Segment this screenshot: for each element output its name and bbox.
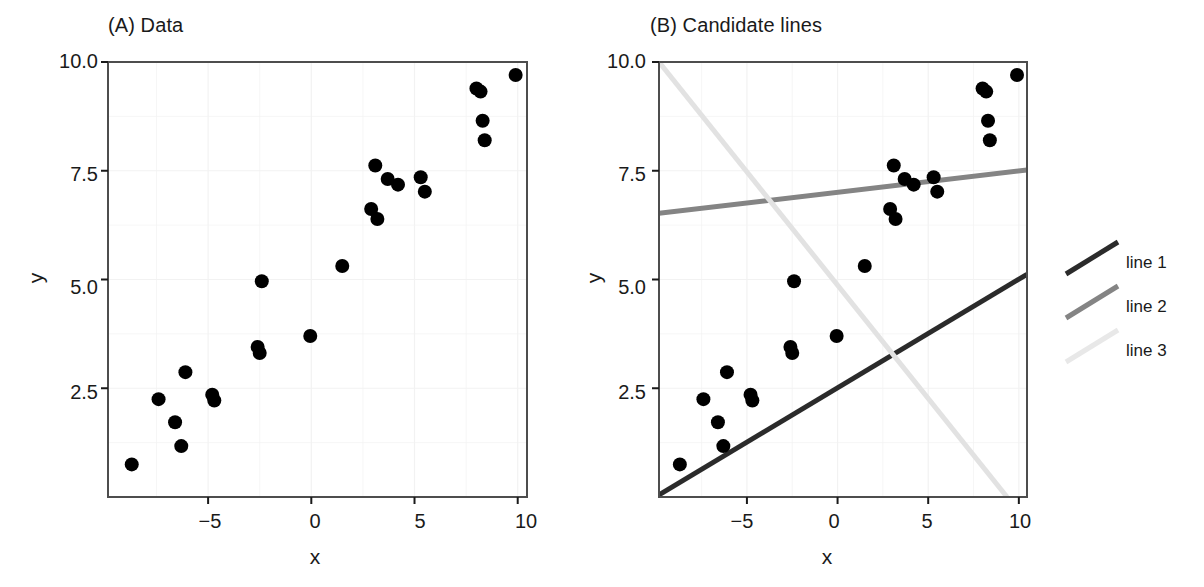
panel-a-ytick-2.5: 2.5 — [40, 381, 98, 404]
panel-b-ytick-2.5: 2.5 — [588, 381, 646, 404]
panel-b-xtick-10: 10 — [990, 510, 1050, 533]
data-point — [983, 133, 997, 147]
panel-a-xtick-0: 0 — [285, 510, 345, 533]
panel-b-xtick-0: 0 — [804, 510, 864, 533]
data-point — [858, 259, 872, 273]
data-point — [907, 178, 921, 192]
data-point — [745, 393, 759, 407]
panel-a-plot-area — [100, 52, 540, 512]
data-point — [711, 415, 725, 429]
data-point — [785, 346, 799, 360]
panel-a-xlabel: x — [300, 545, 330, 569]
data-point — [887, 159, 901, 173]
data-point — [716, 439, 730, 453]
data-point — [474, 85, 488, 99]
legend-swatch-line-2[interactable] — [1066, 286, 1118, 318]
data-point — [1010, 68, 1024, 82]
panel-a-xtick--5: −5 — [180, 510, 240, 533]
data-point — [168, 415, 182, 429]
data-point — [125, 457, 139, 471]
data-point — [207, 393, 221, 407]
data-point — [303, 329, 317, 343]
data-point — [255, 274, 269, 288]
panel-a-xtick-10: 10 — [496, 510, 556, 533]
legend-label-line-3[interactable]: line 3 — [1126, 341, 1167, 361]
data-point — [178, 365, 192, 379]
legend-swatch-line-1[interactable] — [1066, 242, 1118, 274]
data-point — [930, 185, 944, 199]
panel-b-ytick-10: 10.0 — [588, 50, 646, 73]
data-point — [979, 85, 993, 99]
panel-b-xtick-5: 5 — [897, 510, 957, 533]
figure-root: (A) Data y 10.0 7.5 5.0 2.5 −5 0 5 10 x … — [0, 0, 1204, 587]
data-point — [418, 185, 432, 199]
data-point — [152, 392, 166, 406]
data-point — [787, 274, 801, 288]
data-point — [673, 457, 687, 471]
data-point — [391, 178, 405, 192]
data-point — [927, 170, 941, 184]
panel-a-ytick-10: 10.0 — [40, 50, 98, 73]
panel-a-xtick-5: 5 — [390, 510, 450, 533]
legend-swatches — [1060, 238, 1130, 358]
legend: line 1 line 2 line 3 — [1060, 238, 1204, 358]
data-point — [478, 133, 492, 147]
data-point — [696, 392, 710, 406]
data-point — [174, 439, 188, 453]
panel-a-title: (A) Data — [108, 14, 183, 37]
data-point — [476, 114, 490, 128]
legend-label-line-2[interactable]: line 2 — [1126, 297, 1167, 317]
data-point — [981, 114, 995, 128]
legend-label-line-1[interactable]: line 1 — [1126, 253, 1167, 273]
panel-b-ytick-5: 5.0 — [588, 276, 646, 299]
data-point — [509, 68, 523, 82]
panel-a-ytick-5: 5.0 — [40, 276, 98, 299]
panel-b-xlabel: x — [812, 545, 842, 569]
panel-b-plot-area — [650, 52, 1050, 512]
legend-swatch-line-3[interactable] — [1066, 330, 1118, 362]
data-point — [889, 212, 903, 226]
panel-b-title: (B) Candidate lines — [650, 14, 822, 37]
panel-b-ytick-7.5: 7.5 — [588, 163, 646, 186]
panel-b-xtick--5: −5 — [712, 510, 772, 533]
panel-a: (A) Data y 10.0 7.5 5.0 2.5 −5 0 5 10 x — [0, 0, 600, 587]
data-point — [830, 329, 844, 343]
data-point — [414, 170, 428, 184]
data-point — [253, 346, 267, 360]
data-point — [368, 159, 382, 173]
data-point — [335, 259, 349, 273]
data-point — [720, 365, 734, 379]
panel-a-ytick-7.5: 7.5 — [40, 163, 98, 186]
data-point — [370, 212, 384, 226]
